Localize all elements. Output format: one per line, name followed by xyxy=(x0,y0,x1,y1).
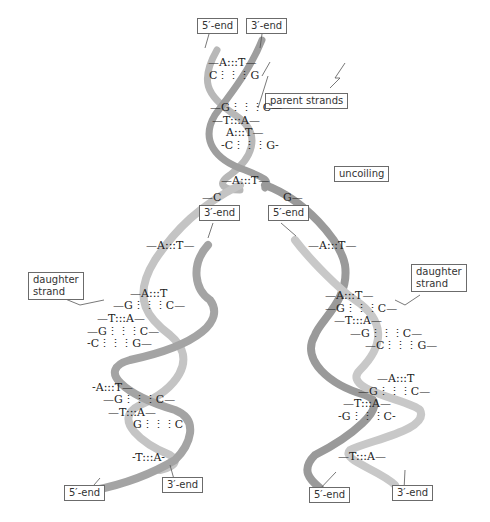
base-pair: -C⋮⋮⋮G- xyxy=(221,140,279,152)
base-pair: —T:::A— xyxy=(97,313,145,325)
base-pair: -T:::A- xyxy=(132,452,165,464)
base-pair: A:::T— xyxy=(226,127,263,139)
base-pair: —A:::T— xyxy=(325,290,373,302)
label-right-daughter-strand: daughter strand xyxy=(411,264,467,292)
base-pair: —A:::T— xyxy=(221,175,269,187)
base-pair: —C⋮⋮⋮G— xyxy=(365,340,437,352)
base-unpaired: —C xyxy=(202,192,221,204)
base-pair: —T:::A— xyxy=(334,315,382,327)
label-bottom-left-3-end: 3′-end xyxy=(162,477,203,493)
label-bottom-right-5-end: 5′-end xyxy=(309,487,350,503)
base-pair: —G⋮⋮⋮C— xyxy=(103,394,175,406)
base-unpaired: G— xyxy=(283,192,303,204)
base-pair: —G⋮⋮⋮C— xyxy=(113,300,185,312)
label-fork-5-end: 5′-end xyxy=(268,205,309,221)
base-pair: —A:::T— xyxy=(308,240,356,252)
base-pair: —A:::T— xyxy=(208,57,256,69)
label-uncoiling: uncoiling xyxy=(334,166,389,182)
label-top-3-end: 3′-end xyxy=(246,18,287,34)
dna-replication-diagram: 5′-end 3′-end parent strands uncoiling 3… xyxy=(0,0,490,522)
label-fork-3-end: 3′-end xyxy=(199,205,240,221)
base-pair: —A:::T xyxy=(377,373,414,385)
base-pair: G⋮⋮⋮C xyxy=(133,419,183,431)
base-pair: -G⋮⋮⋮C- xyxy=(338,411,396,423)
label-bottom-left-5-end: 5′-end xyxy=(64,485,105,501)
base-pair: —T:::A— xyxy=(343,398,391,410)
label-bottom-right-3-end: 3′-end xyxy=(392,485,433,501)
label-top-5-end: 5′-end xyxy=(197,18,238,34)
base-pair: —T:::A— xyxy=(338,451,386,463)
base-pair: C⋮⋮⋮G xyxy=(209,70,259,82)
base-pair: —A:::T— xyxy=(146,240,194,252)
base-pair: —G⋮⋮⋮C— xyxy=(210,102,282,114)
label-left-daughter-strand: daughter strand xyxy=(28,272,84,300)
base-pair: -C⋮⋮⋮G— xyxy=(87,338,152,350)
